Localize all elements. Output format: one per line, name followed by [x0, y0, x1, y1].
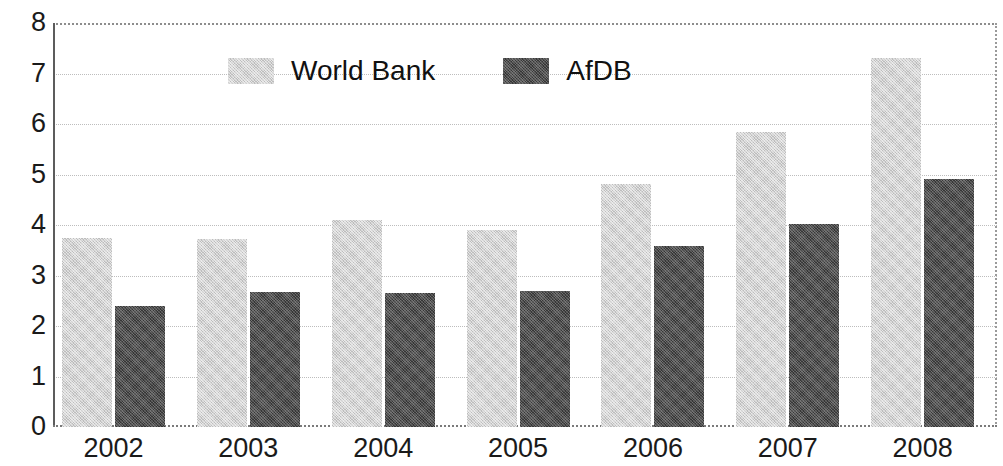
bar-2006-afdb	[654, 246, 704, 427]
x-axis-tick-labels: 2002200320042005200620072008	[53, 432, 997, 466]
x-axis-tick-label: 2007	[738, 432, 838, 464]
x-axis-tick-label: 2005	[468, 432, 568, 464]
bar-2004-afdb	[385, 293, 435, 427]
legend-label: World Bank	[291, 56, 435, 86]
bar-2008-afdb	[924, 179, 974, 427]
y-axis-tick-labels: 876543210	[0, 0, 46, 440]
legend-item-afdb[interactable]: AfDB	[503, 56, 631, 86]
y-axis-tick-label: 4	[6, 211, 46, 238]
bar-2005-world-bank	[467, 230, 517, 427]
bar-2008-world-bank	[871, 58, 921, 427]
y-axis-tick-label: 2	[6, 312, 46, 339]
x-axis-tick-label: 2004	[333, 432, 433, 464]
bar-2006-world-bank	[601, 184, 651, 427]
legend-swatch-icon	[228, 58, 274, 84]
y-axis-tick-label: 0	[6, 413, 46, 440]
chart-legend: World BankAfDB	[228, 55, 632, 87]
x-axis-tick-label: 2006	[603, 432, 703, 464]
legend-swatch-icon	[503, 58, 549, 84]
bar-2004-world-bank	[332, 220, 382, 427]
y-axis-tick-label: 1	[6, 363, 46, 390]
y-axis-tick-label: 7	[6, 60, 46, 87]
bar-2007-afdb	[789, 224, 839, 427]
bar-chart: 876543210 2002200320042005200620072008 W…	[0, 0, 1003, 466]
bar-2003-world-bank	[197, 239, 247, 427]
x-axis-tick-label: 2008	[873, 432, 973, 464]
bar-2002-world-bank	[62, 238, 112, 427]
y-axis-tick-label: 8	[6, 9, 46, 36]
x-axis-tick-label: 2003	[198, 432, 298, 464]
y-axis-tick-label: 5	[6, 161, 46, 188]
bar-2005-afdb	[520, 291, 570, 427]
legend-label: AfDB	[566, 56, 631, 86]
bar-2002-afdb	[115, 306, 165, 427]
bar-2003-afdb	[250, 292, 300, 427]
legend-item-world-bank[interactable]: World Bank	[228, 56, 435, 86]
legend-spacer	[435, 71, 503, 72]
bar-2007-world-bank	[736, 132, 786, 427]
y-axis-tick-label: 3	[6, 262, 46, 289]
y-axis-tick-label: 6	[6, 110, 46, 137]
x-axis-tick-label: 2002	[64, 432, 164, 464]
